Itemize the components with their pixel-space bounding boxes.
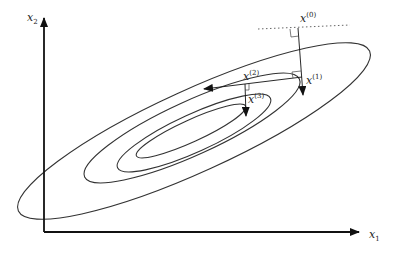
y-axis-label: x2: [27, 11, 38, 26]
iterate-label-1: x(1): [306, 73, 322, 87]
iterate-label-2: x(2): [243, 69, 259, 83]
iterate-label-3: x(3): [248, 92, 264, 106]
contour-lines: [1, 14, 386, 249]
tangent-line: [258, 25, 350, 29]
step-1-to-2: [204, 77, 302, 89]
contour-outer: [1, 14, 386, 249]
step-2-to-3: [245, 84, 246, 116]
axes: [44, 18, 359, 232]
step-0-to-1: [298, 28, 303, 95]
right-angle-mark-0: [290, 29, 299, 37]
x-axis-label: x1: [369, 228, 380, 243]
iterate-label-0: x(0): [300, 11, 316, 25]
coordinate-descent-diagram: x2 x1 x(0) x(1) x(2) x(3): [0, 0, 402, 253]
